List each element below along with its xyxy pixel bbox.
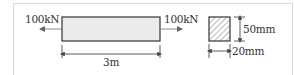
cross-section-hatched-rect (209, 17, 230, 41)
axial-load-diagram: 100kN 100kN 3m 50mm 20mm (0, 0, 294, 75)
cross-section: 50mm 20mm (209, 17, 275, 58)
length-label: 3m (103, 56, 119, 68)
left-force-label: 100kN (25, 13, 59, 25)
left-force: 100kN (25, 13, 61, 29)
beam (62, 17, 160, 41)
height-label: 50mm (243, 23, 275, 35)
length-dimension: 3m (62, 45, 160, 68)
width-label: 20mm (232, 45, 264, 57)
right-force-label: 100kN (164, 13, 198, 25)
right-force: 100kN (161, 13, 198, 29)
